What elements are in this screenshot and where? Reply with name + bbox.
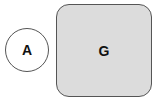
node-a-label: A (22, 42, 32, 58)
node-g-label: G (99, 43, 110, 59)
node-a-circle: A (5, 28, 49, 72)
node-g-rounded-rect: G (56, 4, 152, 97)
